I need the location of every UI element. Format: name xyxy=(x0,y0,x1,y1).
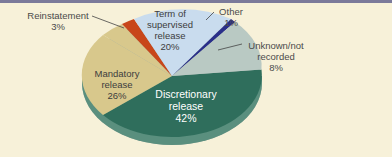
label-other: Other 1% xyxy=(206,6,256,28)
chart-frame: Reinstatement 3% Term of supervised rele… xyxy=(0,0,392,157)
label-reinstatement: Reinstatement 3% xyxy=(18,10,98,32)
label-term-of-supervised-release: Term of supervised release 20% xyxy=(140,8,200,52)
label-mandatory-release: Mandatory release 26% xyxy=(84,68,150,101)
label-unknown-not-recorded: Unknown/not recorded 8% xyxy=(240,40,312,73)
label-discretionary-release: Discretionary release 42% xyxy=(148,88,224,124)
